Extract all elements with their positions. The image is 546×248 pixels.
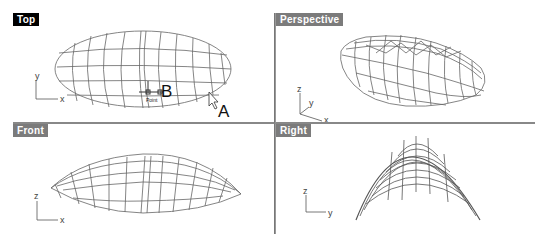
axis-label-z: z xyxy=(303,186,308,196)
axis-label-y: y xyxy=(309,98,314,108)
label-a: A xyxy=(218,102,229,122)
point-label: Point xyxy=(146,97,158,103)
viewport-top[interactable]: Top Point y xyxy=(13,13,275,124)
axis-label-y: y xyxy=(35,71,40,81)
axis-label-z: z xyxy=(297,84,302,94)
axis-label-x: x xyxy=(60,215,65,225)
axis-label-x: x xyxy=(60,94,65,104)
front-wireframe: z x xyxy=(13,124,275,234)
perspective-wireframe: z y x xyxy=(276,13,535,124)
viewport-perspective[interactable]: Perspective z y x xyxy=(275,13,535,124)
viewport-right[interactable]: Right z y xyxy=(275,124,535,234)
axis-label-y: y xyxy=(328,208,333,218)
mouse-cursor-icon xyxy=(209,92,218,109)
right-wireframe: z y xyxy=(276,124,535,234)
axis-label-z: z xyxy=(34,191,39,201)
label-b: B xyxy=(161,82,172,102)
viewport-front[interactable]: Front z x xyxy=(13,124,275,234)
top-wireframe: Point y x xyxy=(13,13,275,124)
axis-label-x: x xyxy=(324,115,329,124)
